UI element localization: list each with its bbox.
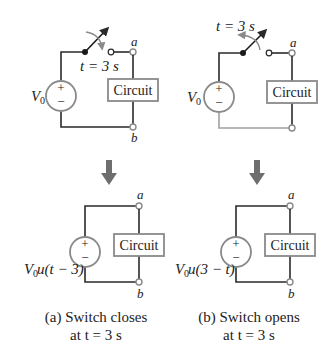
terminal-b [287,279,293,285]
transform-arrow-b [249,160,265,185]
terminal-a-label: a [288,187,295,202]
wire [219,53,242,81]
terminal-b-label: b [131,130,138,145]
panel-b-bottom-circuit: Circuit + − V 0 u(3 − t) a b [175,187,315,301]
source-subscript: 0 [196,96,201,107]
circuit-box-label: Circuit [114,83,153,98]
panel-a-bottom-circuit: Circuit + − V 0 u(t − 3) a b [24,187,164,301]
down-arrow-head [249,173,265,185]
terminal-a [287,203,293,209]
terminal-b [136,279,142,285]
caption-b-line2: at t = 3 s [223,327,275,343]
terminal-a [130,49,136,55]
switch-action-arrow-icon [240,35,260,50]
switch-time-label: t = 3 s [216,18,255,34]
terminal-a [289,50,295,56]
caption-a-line1: (a) Switch closes [45,309,148,326]
source-function: u(3 − t) [188,261,235,278]
caption-b-line1: (b) Switch opens [198,309,300,326]
plus-sign: + [57,80,64,95]
switch-time-label: t = 3 s [80,58,119,74]
plus-sign: + [81,236,88,251]
terminal-a-label: a [131,34,138,49]
switch-contact [108,49,114,55]
wire [85,206,136,237]
panel-b-top-circuit: Circuit + − V 0 t = 3 s a [187,18,317,131]
caption-a-line2: at t = 3 s [70,327,122,343]
minus-sign: − [215,95,222,110]
circuit-box-label: Circuit [271,238,310,253]
wire [61,112,133,127]
transform-arrow-a [101,160,117,185]
plus-sign: + [215,81,222,96]
circuit-box-label: Circuit [120,238,159,253]
terminal-a-label: a [137,187,144,202]
terminal-b-label: b [288,286,295,301]
wire-inactive [219,113,290,128]
source-subscript: 0 [40,95,45,106]
wire [236,206,287,237]
minus-sign: − [57,94,64,109]
terminal-a [136,203,142,209]
down-arrow-head [101,173,117,185]
circuit-box-label: Circuit [273,85,312,100]
down-arrow-icon [254,160,260,174]
source-function: u(t − 3) [37,261,84,278]
wire [236,267,287,282]
down-arrow-icon [106,160,112,174]
switch-action-arrow-icon [86,32,102,48]
circuit-diagram: Circuit + − V 0 t = 3 s a b Circuit + − … [0,0,323,351]
switch-blade-icon [243,31,265,53]
plus-sign: + [232,236,239,251]
switch-contact [266,50,272,56]
terminal-b [289,125,295,131]
terminal-a-label: a [290,35,297,50]
wire [85,267,136,282]
terminal-b-label: b [137,286,144,301]
panel-a-top-circuit: Circuit + − V 0 t = 3 s a b [31,29,158,145]
